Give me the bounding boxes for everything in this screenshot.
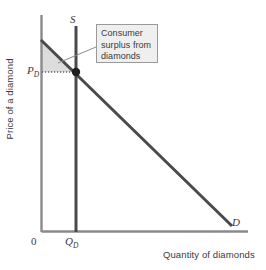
price-tick-label: PD — [27, 65, 39, 79]
price-tick-subscript: D — [34, 70, 39, 79]
demand-curve-label: D — [232, 217, 240, 228]
y-axis-title: Price of a diamond — [5, 58, 15, 139]
origin-label: 0 — [31, 236, 37, 247]
supply-curve-label: S — [70, 14, 76, 25]
x-axis-title: Quantity of diamonds — [163, 250, 255, 260]
demand-curve — [41, 40, 232, 226]
supply-demand-figure: Price of a diamond Quantity of diamonds … — [0, 0, 266, 270]
price-tick-letter: P — [27, 64, 34, 76]
quantity-tick-letter: Q — [65, 235, 73, 247]
consumer-surplus-callout-text: Consumer surplus from diamonds — [101, 28, 158, 63]
consumer-surplus-callout-box: Consumer surplus from diamonds — [96, 24, 158, 63]
quantity-tick-subscript: D — [73, 241, 78, 250]
quantity-tick-label: QD — [65, 236, 78, 250]
equilibrium-point — [72, 68, 80, 76]
